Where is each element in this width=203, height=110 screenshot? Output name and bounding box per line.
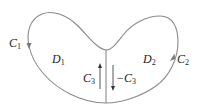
c2-label: C2 — [177, 52, 189, 67]
c1-arrow-icon — [27, 43, 32, 49]
c3-arrow-icon — [98, 63, 102, 68]
neg-c3-arrow-icon — [111, 86, 115, 91]
c3-label: C3 — [83, 71, 95, 86]
d2-label: D2 — [142, 52, 156, 67]
diagram-canvas: C1 D1 D2 C2 C3 −C3 — [0, 0, 203, 110]
c2-arrow-icon — [170, 54, 175, 62]
neg-c3-label: −C3 — [116, 71, 136, 86]
d1-label: D1 — [51, 52, 65, 67]
c1-label: C1 — [9, 36, 21, 51]
